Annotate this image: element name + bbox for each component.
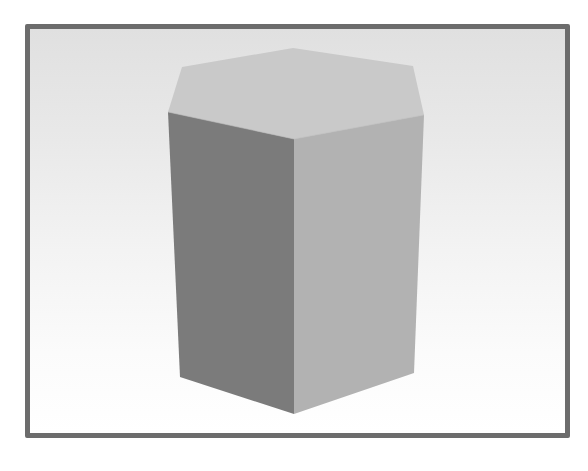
hexagonal-prism-drawing xyxy=(0,0,588,471)
prism-right-face xyxy=(294,115,424,414)
prism-left-face xyxy=(168,112,294,414)
